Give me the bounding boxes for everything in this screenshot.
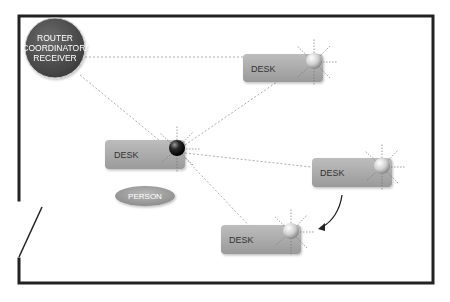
desk-center-left: DESK (105, 125, 200, 172)
desk-label: DESK (229, 235, 254, 245)
desk-label: DESK (114, 150, 139, 160)
person-label: PERSON (128, 192, 162, 201)
desk-bottom: DESK (221, 209, 314, 255)
office-floor-diagram: ROUTER COORDINATOR/ RECEIVER DESK DESK P… (0, 0, 450, 302)
door (19, 207, 42, 257)
router-label-line2: COORDINATOR/ (22, 43, 88, 53)
person: PERSON (115, 186, 175, 206)
desk-label: DESK (251, 64, 276, 74)
desk-right: DESK (312, 143, 405, 190)
router-label-line1: ROUTER (37, 33, 73, 43)
router-label-line3: RECEIVER (33, 53, 76, 63)
router-coordinator-receiver: ROUTER COORDINATOR/ RECEIVER (22, 18, 88, 78)
desk-top-right: DESK (243, 38, 338, 86)
desk-label: DESK (320, 168, 345, 178)
movement-arrow-icon (318, 195, 342, 231)
